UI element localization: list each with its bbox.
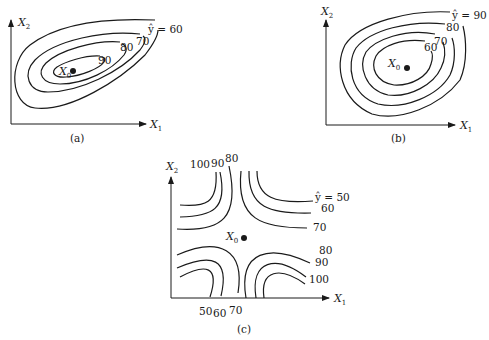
panel-c: X2 X1 X0 100 90 80 ŷ = 50 60 [165,152,350,335]
stationary-point-dot [404,65,410,71]
contour-label-90-top: 90 [211,157,224,169]
contour-label-60: 60 [424,41,437,53]
contour-label-70: 70 [136,35,149,47]
y-axis-label-c: X2 [165,160,178,175]
stationary-point-label-c: X0 [225,230,238,245]
x-axis-label-c: X1 [333,292,346,307]
caption-c: (c) [237,323,251,335]
contour-60 [15,20,158,109]
y-axis-label-b: X2 [320,5,333,20]
contours-a [15,20,158,109]
panel-a: X2 X1 X0 ŷ = 60 70 80 90 (a) [11,16,183,144]
contour-label-90: 90 [98,54,111,66]
contour-label-80: 80 [120,41,133,53]
x-axis-label-a: X1 [149,118,162,133]
contour-label-60: ŷ = 60 [147,23,183,35]
contour-50-ll [180,269,213,297]
contour-50-ur [257,171,313,202]
contour-label-60-right: 60 [321,202,334,214]
contour-100-lr [263,273,305,298]
caption-b: (b) [391,132,406,144]
contour-90-lr [255,264,306,298]
x-axis-label-b: X1 [459,119,472,134]
caption-a: (a) [70,132,84,144]
contour-label-70-bottom: 70 [229,304,242,316]
stationary-point-label-b: X0 [387,57,400,72]
contour-label-80-right: 80 [319,244,332,256]
contour-80-ul [177,166,232,229]
contour-label-80-top: 80 [225,152,238,164]
contours-c [177,166,313,298]
panel-b: X2 X1 X0 ŷ = 90 80 70 60 (b) [320,5,487,144]
contour-100-ul [180,172,216,205]
contour-label-60-bottom: 60 [213,307,226,319]
contour-label-100-top: 100 [190,158,210,170]
contour-label-100-right: 100 [309,273,329,285]
contour-60-ll [177,260,223,296]
contour-label-70-right: 70 [313,221,326,233]
stationary-point-label-a: X0 [58,65,71,80]
contour-80 [41,42,126,84]
contour-label-90: ŷ = 90 [451,9,487,21]
contour-label-80: 80 [446,21,459,33]
contour-80-lr [245,253,310,298]
contour-60-ur [249,171,311,213]
contour-label-50-bottom: 50 [199,305,212,317]
axes-c [171,177,329,298]
contour-70-ur [240,171,307,228]
stationary-point-dot [241,235,247,241]
response-surface-figure: X2 X1 X0 ŷ = 60 70 80 90 (a) X2 X1 [0,0,489,340]
contour-label-90-right: 90 [315,256,328,268]
y-axis-label-a: X2 [17,16,30,31]
